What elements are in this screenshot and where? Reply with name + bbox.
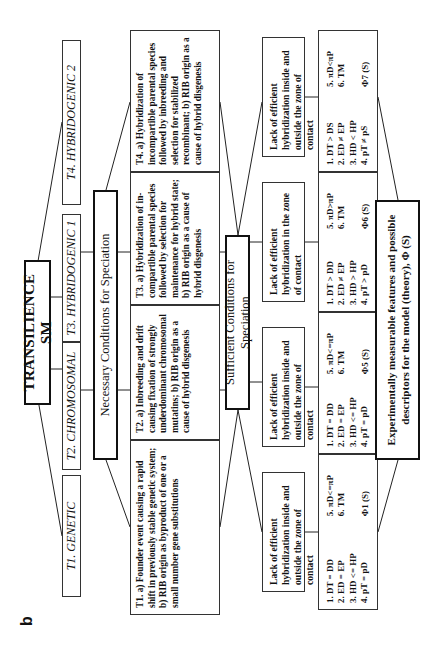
- criterion: 3. HD > HP: [348, 260, 359, 305]
- criterion: 1. DT = DD: [325, 553, 336, 603]
- necessary-conditions-title: Necessary Conditions for Speciation: [98, 234, 113, 417]
- criteria-t4-right: 5. πD<πP 6. TM Φ7 (S): [325, 51, 371, 87]
- criterion: 2. ED = EP: [336, 397, 347, 447]
- type-t3-box: T3. HYBRIDOGENIC 1: [62, 214, 81, 342]
- criterion: 5. πD<πP: [325, 51, 336, 87]
- criterion: 4. pT = pD: [359, 397, 370, 447]
- necessary-t4-text: T4. a) Hybridization of incompartible pa…: [135, 37, 203, 165]
- sufficient-conditions-title: Sufficient Conditions for Speciation: [223, 237, 253, 408]
- panel-label: b: [18, 616, 36, 626]
- criterion: 3. HD <= HP: [348, 397, 359, 447]
- phi-descriptor: Φ6 (S): [360, 193, 371, 229]
- outcome-text: Experimentally measurable features and p…: [384, 210, 412, 450]
- criteria-t2-box: 1. DT = DD 2. ED = EP 3. HD <= HP 4. pT …: [318, 312, 378, 454]
- necessary-t3-box: T3. a) Hybridization of in-compartible p…: [130, 172, 220, 305]
- sufficient-t3-text: Lack of efficient hybridization in the z…: [268, 193, 303, 295]
- criteria-t2-right: 5. πD<=πP 6. TM Φ5 (S): [325, 333, 371, 374]
- criterion: 6. TM: [336, 333, 347, 374]
- type-t1-box: T1. GENETIC: [62, 475, 81, 597]
- criteria-t3-box: 1. DT > DD 2. ED ≠ EP 3. HD > HP 4. pT >…: [318, 172, 378, 312]
- phi-descriptor: Φ7 (S): [360, 51, 371, 87]
- criterion: 4. pT ≠ pS: [359, 120, 370, 165]
- root-title-box: TRANSILIENCE SM: [24, 260, 51, 405]
- diagram-canvas: b TRANSILIENCE SM T1. GENETIC T2. CHROMO…: [0, 0, 443, 652]
- criterion: 2. ED = EP: [336, 553, 347, 603]
- phi-descriptor: Φ1 (S): [360, 475, 371, 516]
- criterion: 4. pT = pD: [359, 553, 370, 603]
- criterion: 1. DT > DD: [325, 260, 336, 305]
- criteria-t2-left: 1. DT = DD 2. ED = EP 3. HD <= HP 4. pT …: [325, 397, 371, 447]
- criterion: 5. πD<=πP: [325, 475, 336, 516]
- sufficient-t4-box: Lack of efficient hybridization inside a…: [262, 37, 305, 157]
- sufficient-t2-box: Lack of efficient hybridization inside a…: [262, 327, 305, 447]
- criteria-t3-right: 5. πD>πP 6. TM Φ6 (S): [325, 193, 371, 229]
- type-t4-box: T4. HYBRIDOGENIC 2: [62, 40, 81, 205]
- necessary-t2-box: T2. a) Inbreeding and drift causing fixa…: [130, 305, 220, 440]
- criteria-t1-right: 5. πD<=πP 6. TM Φ1 (S): [325, 475, 371, 516]
- criteria-t1-box: 1. DT = DD 2. ED = EP 3. HD <= HP 4. pT …: [318, 454, 378, 610]
- root-title: TRANSILIENCE SM: [21, 262, 55, 403]
- type-t2-label: T2. CHROMOSOMAL: [64, 352, 79, 461]
- type-t2-box: T2. CHROMOSOMAL: [62, 342, 81, 470]
- criterion: 1. DT > DS: [325, 120, 336, 165]
- sufficient-t1-box: Lack of efficient hybridization inside a…: [262, 472, 305, 592]
- type-t3-label: T3. HYBRIDOGENIC 1: [64, 221, 79, 336]
- criterion: 6. TM: [336, 475, 347, 516]
- necessary-t3-text: T3. a) Hybridization of in-compartible p…: [135, 179, 203, 298]
- criterion: 3. HD < HP: [348, 120, 359, 165]
- sufficient-conditions-header: Sufficient Conditions for Speciation: [225, 235, 250, 410]
- criteria-t3-left: 1. DT > DD 2. ED ≠ EP 3. HD > HP 4. pT >…: [325, 260, 371, 305]
- type-t4-label: T4. HYBRIDOGENIC 2: [64, 65, 79, 180]
- necessary-conditions-header: Necessary Conditions for Speciation: [93, 190, 118, 460]
- criterion: 6. TM: [336, 193, 347, 229]
- criteria-t4-box: 1. DT > DS 2. ED ≠ EP 3. HD < HP 4. pT ≠…: [318, 30, 378, 172]
- criteria-t4-left: 1. DT > DS 2. ED ≠ EP 3. HD < HP 4. pT ≠…: [325, 120, 371, 165]
- criterion: 2. ED ≠ EP: [336, 260, 347, 305]
- outcome-box: Experimentally measurable features and p…: [375, 200, 420, 460]
- criterion: 2. ED ≠ EP: [336, 120, 347, 165]
- criterion: 1. DT = DD: [325, 397, 336, 447]
- criterion: 4. pT > pD: [359, 260, 370, 305]
- phi-descriptor: Φ5 (S): [360, 333, 371, 374]
- criterion: 3. HD <= HP: [348, 553, 359, 603]
- necessary-t1-box: T1. a) Founder event causing a rapid shi…: [130, 440, 220, 615]
- criterion: 6. TM: [336, 51, 347, 87]
- criteria-t1-left: 1. DT = DD 2. ED = EP 3. HD <= HP 4. pT …: [325, 553, 371, 603]
- sufficient-t3-box: Lack of efficient hybridization in the z…: [262, 182, 305, 302]
- necessary-t2-text: T2. a) Inbreeding and drift causing fixa…: [135, 314, 191, 433]
- type-t1-label: T1. GENETIC: [64, 502, 79, 571]
- criterion: 5. πD>πP: [325, 193, 336, 229]
- criterion: 5. πD<=πP: [325, 333, 336, 374]
- necessary-t4-box: T4. a) Hybridization of incompartible pa…: [130, 30, 220, 172]
- necessary-t1-text: T1. a) Founder event causing a rapid shi…: [135, 448, 180, 609]
